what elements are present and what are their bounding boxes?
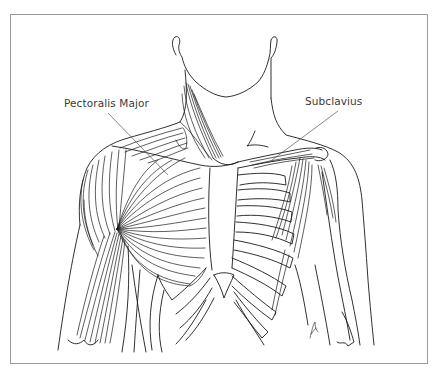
anatomy-illustration — [0, 0, 441, 376]
artist-signature — [310, 322, 318, 338]
neck-shoulder-outline — [79, 70, 374, 345]
subclavius-fibers — [250, 150, 336, 315]
left-arm-muscle-fibers — [77, 232, 125, 343]
pectoralis-major-fibers — [117, 158, 206, 286]
pectoralis-major-label: Pectoralis Major — [64, 97, 149, 109]
rib-cage — [232, 173, 294, 345]
left-lower-ribs — [150, 268, 214, 352]
head-outline — [172, 37, 277, 98]
trapezius-fibers — [120, 128, 188, 163]
right-arm-outline — [295, 147, 360, 346]
pectoralis-leader-line — [108, 113, 168, 175]
subclavius-label: Subclavius — [305, 95, 362, 107]
